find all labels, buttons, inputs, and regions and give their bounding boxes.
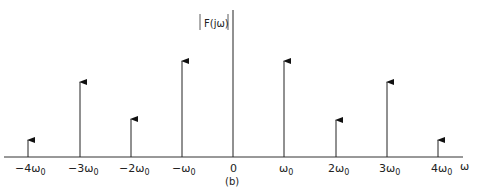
x-axis-label: ω [460, 160, 469, 173]
y-axis-label: F(jω) [204, 18, 229, 29]
figure-caption: (b) [225, 176, 239, 187]
svg-text:4ω0: 4ω0 [431, 162, 452, 177]
svg-text:2ω0: 2ω0 [328, 162, 349, 177]
tick-labels: −4ω0 −3ω0 −2ω0 −ω0 0 ω0 2ω0 3ω0 4ω0 [15, 162, 452, 177]
svg-text:3ω0: 3ω0 [379, 162, 400, 177]
svg-text:−4ω0: −4ω0 [15, 162, 46, 177]
svg-text:ω0: ω0 [279, 162, 293, 177]
svg-text:−2ω0: −2ω0 [119, 162, 150, 177]
svg-text:−3ω0: −3ω0 [68, 162, 99, 177]
svg-text:−ω0: −ω0 [172, 162, 196, 177]
spectrum-diagram: F(jω) −4ω0 −3ω0 −2ω0 −ω0 0 ω0 2ω0 3ω0 4ω… [0, 0, 478, 191]
svg-text:0: 0 [230, 162, 237, 175]
